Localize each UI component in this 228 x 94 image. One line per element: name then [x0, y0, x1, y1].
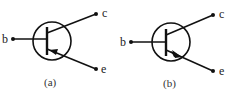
transistor-a: b c e (a) [2, 6, 107, 89]
transistor-b-base-label: b [120, 35, 126, 49]
caption-a: (a) [44, 76, 57, 89]
transistor-a-collector-terminal [94, 12, 98, 16]
transistor-b-emitter-terminal [211, 69, 215, 73]
transistor-a-emitter-terminal [94, 67, 98, 71]
transistor-b-emitter-label: e [219, 64, 224, 78]
transistor-a-base-terminal [11, 37, 15, 41]
transistor-b-collector-terminal [211, 13, 215, 17]
transistor-a-base-label: b [2, 32, 8, 46]
transistor-b: b c e (b) [120, 7, 224, 90]
transistor-a-collector-label: c [102, 6, 107, 20]
transistor-a-emitter-arrow-icon [49, 49, 58, 55]
caption-b: (b) [163, 77, 176, 90]
transistor-a-envelope [33, 22, 71, 60]
transistor-b-collector-label: c [219, 7, 224, 21]
transistor-a-emitter-label: e [101, 62, 106, 76]
transistor-b-base-terminal [129, 40, 133, 44]
transistor-a-collector-lead [47, 14, 96, 33]
transistor-b-collector-lead [166, 15, 213, 35]
transistor-b-emitter-arrow-head [172, 50, 182, 58]
transistor-diagrams: b c e (a) b c e (b) [0, 0, 228, 94]
